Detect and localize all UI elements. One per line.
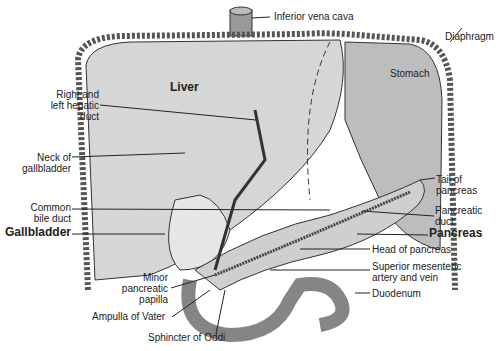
label-head-of-pancreas: Head of pancreas [372,244,451,255]
label-hepatic-duct: Right and left hepatic duct [20,89,99,122]
label-diaphragm: Diaphragm [445,31,494,42]
label-gallbladder: Gallbladder [0,227,71,238]
label-sphincter-of-oddi: Sphincter of Oddi [148,332,225,343]
label-neck-of-gallbladder: Neck of gallbladder [20,152,71,174]
label-pancreas: Pancreas [429,228,482,239]
label-duodenum: Duodenum [372,288,421,299]
anatomy-illustration [0,0,502,351]
duodenum-shape [188,280,342,335]
label-stomach: Stomach [390,68,429,79]
label-inferior-vena-cava: Inferior vena cava [274,11,354,22]
label-liver: Liver [170,82,199,93]
label-ampulla-of-vater: Ampulla of Vater [92,311,165,322]
label-common-bile-duct: Common bile duct [20,202,71,224]
label-tail-of-pancreas: Tail of pancreas [436,174,477,196]
label-superior-mesenteric-artery-vein: Superior mesenteric artery and vein [372,261,461,283]
label-minor-pancreatic-papilla: Minor pancreatic papilla [100,272,168,305]
label-pancreatic-duct: Pancreatic duct [435,205,482,227]
